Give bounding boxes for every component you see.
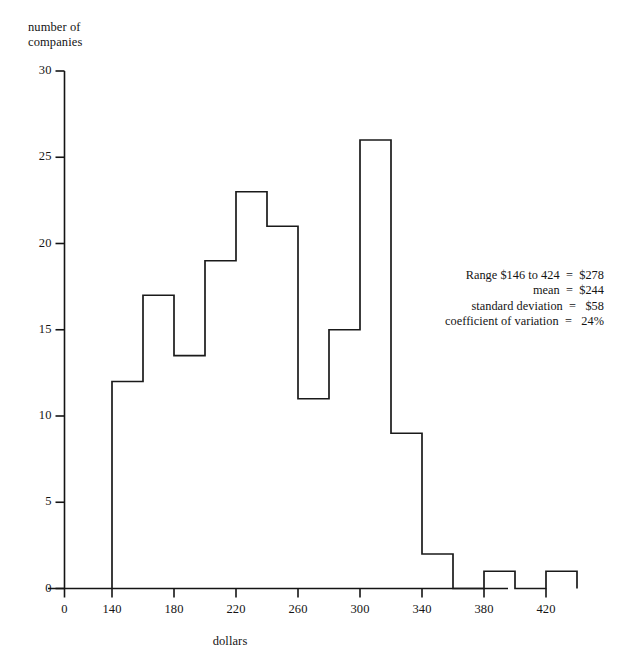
y-tick-label: 30 — [18, 63, 52, 78]
histogram-chart: number of companies 051015202530 0140180… — [0, 0, 626, 666]
x-tick-label: 340 — [400, 602, 444, 617]
y-tick-label: 20 — [18, 236, 52, 251]
y-tick-label: 10 — [18, 408, 52, 423]
statistic-line: coefficient of variation = 24% — [388, 314, 604, 329]
y-tick-label: 0 — [18, 581, 52, 596]
x-tick-label: 300 — [338, 602, 382, 617]
x-axis-title: dollars — [0, 634, 460, 649]
x-tick-label: 260 — [276, 602, 320, 617]
y-axis-ticks — [56, 71, 65, 589]
y-tick-label: 5 — [18, 494, 52, 509]
x-tick-label: 380 — [462, 602, 506, 617]
y-axis-title: number of companies — [28, 20, 82, 50]
plot-area — [0, 0, 626, 666]
statistic-line: Range $146 to 424 = $278 — [388, 268, 604, 283]
y-tick-label: 15 — [18, 322, 52, 337]
x-tick-label: 180 — [152, 602, 196, 617]
statistics-annotation: Range $146 to 424 = $278mean = $244stand… — [388, 268, 604, 330]
x-tick-label: 0 — [43, 602, 87, 617]
x-axis-ticks — [65, 589, 547, 598]
x-tick-label: 220 — [214, 602, 258, 617]
statistic-line: mean = $244 — [388, 283, 604, 298]
histogram-step-path — [112, 140, 577, 589]
statistic-line: standard deviation = $58 — [388, 299, 604, 314]
histogram-outline — [112, 140, 577, 589]
x-tick-label: 140 — [90, 602, 134, 617]
y-tick-label: 25 — [18, 149, 52, 164]
x-tick-label: 420 — [524, 602, 568, 617]
